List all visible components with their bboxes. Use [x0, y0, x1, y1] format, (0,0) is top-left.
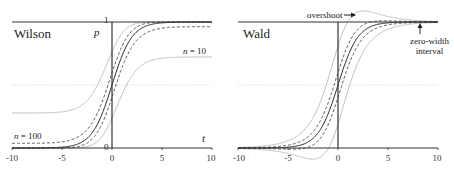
x-tick: 5 — [386, 153, 391, 163]
x-tick: -10 — [233, 153, 245, 163]
x-tick: -10 — [6, 153, 18, 163]
x-axis-label: t — [202, 132, 205, 144]
y-axis-label: p — [94, 26, 100, 38]
x-tick: -5 — [284, 153, 292, 163]
zero-width-label: zero-width interval — [410, 36, 449, 56]
overshoot-label: overshoot — [307, 10, 343, 20]
panel-title: Wald — [243, 26, 270, 42]
x-tick: 5 — [160, 153, 165, 163]
wilson-panel: Wilson p 1 0 t n = 10 n = 100 -10 -5 0 5… — [0, 0, 227, 171]
zero-width-label-line2: interval — [410, 46, 449, 56]
y-tick-0: 0 — [104, 142, 109, 152]
zero-width-label-line1: zero-width — [410, 36, 449, 46]
x-tick: 0 — [110, 153, 115, 163]
y-tick-1: 1 — [104, 15, 109, 25]
x-tick: 10 — [433, 153, 442, 163]
wald-panel: Wald overshoot zero-width interval -10 -… — [227, 0, 454, 171]
n10-label: n = 10 — [183, 46, 206, 56]
n100-label: n = 100 — [14, 131, 42, 141]
x-tick: 10 — [207, 153, 216, 163]
panel-title: Wilson — [14, 26, 51, 42]
x-tick: 0 — [336, 153, 341, 163]
x-tick: -5 — [58, 153, 66, 163]
